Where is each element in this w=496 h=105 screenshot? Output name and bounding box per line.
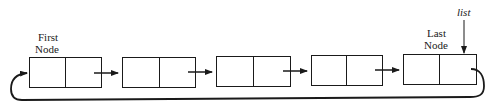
node-2 <box>123 58 196 88</box>
node-5 <box>404 55 477 85</box>
first-node-label-line2: Node <box>35 43 59 55</box>
node-3 <box>217 57 291 87</box>
circular-linked-list-diagram: First Node Last Node list <box>0 0 496 105</box>
list-pointer-label: list <box>457 6 471 18</box>
first-node-label-line1: First <box>38 31 58 43</box>
last-node-label-line2: Node <box>424 39 448 51</box>
node-4 <box>312 56 383 86</box>
last-node-label-line1: Last <box>427 27 446 39</box>
node-1 <box>30 58 102 88</box>
